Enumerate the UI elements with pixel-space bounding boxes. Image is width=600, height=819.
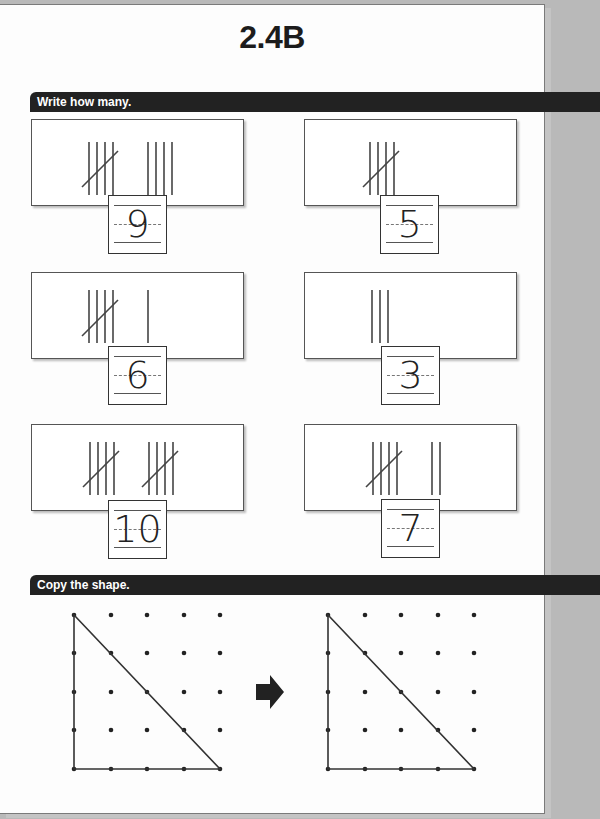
dot-grid-copy[interactable]: [0, 0, 600, 819]
